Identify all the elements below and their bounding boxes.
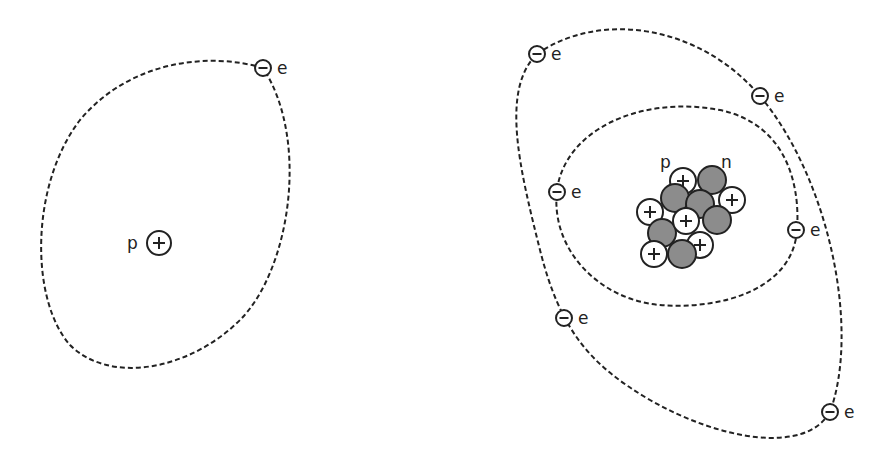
nucleus-neutron-label: n (721, 152, 732, 172)
hydrogen-orbit (41, 61, 289, 368)
outer-electron: e (752, 86, 784, 106)
svg-text:e: e (774, 86, 784, 106)
inner-electron: e (788, 220, 820, 240)
multi-electron-atom: p n e e (516, 29, 854, 438)
atom-diagram: p e p n (0, 0, 894, 454)
outer-electron: e (556, 308, 588, 328)
outer-electron: e (822, 402, 854, 422)
proton (147, 231, 171, 255)
svg-text:e: e (551, 44, 561, 64)
electron: e (255, 58, 287, 78)
proton-label: p (127, 233, 138, 253)
svg-text:e: e (571, 182, 581, 202)
inner-electron: e (549, 182, 581, 202)
electron-label: e (277, 58, 287, 78)
svg-text:e: e (810, 220, 820, 240)
svg-text:e: e (578, 308, 588, 328)
nucleus: p n (637, 152, 745, 268)
outer-electron: e (529, 44, 561, 64)
hydrogen-atom: p e (41, 58, 289, 368)
nucleus-proton-label: p (660, 152, 671, 172)
svg-text:e: e (844, 402, 854, 422)
